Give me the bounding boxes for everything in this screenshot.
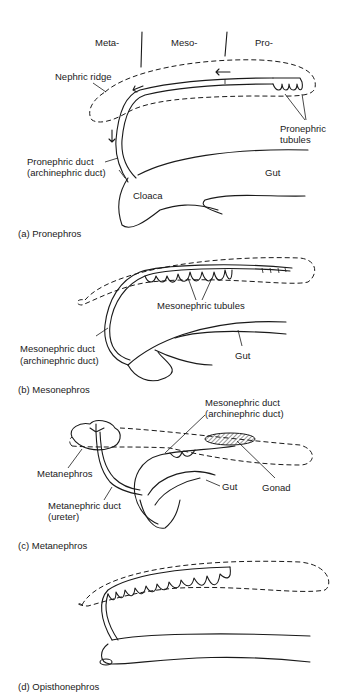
cloaca-outline	[140, 500, 180, 528]
label-pronephric-duct-line2: (archinephric duct)	[27, 167, 106, 178]
panel-c-drawing	[68, 415, 312, 528]
label-pronephric-tubules-line2: tubules	[280, 134, 311, 145]
gut-lower	[203, 195, 305, 214]
gut-upper	[138, 150, 308, 175]
pronephric-duct-outer	[116, 78, 273, 182]
label-mesonephric-duct-line1: Mesonephric duct	[20, 343, 95, 354]
label-pro-region: Pro-	[255, 37, 273, 48]
label-metanephros: Metanephros	[37, 468, 92, 479]
gut-upper	[148, 472, 215, 495]
opisthonephric-duct-outer	[102, 567, 230, 640]
label-meta-region: Meta-	[95, 37, 119, 48]
label-metanephric-duct-line1: Metanephric duct	[48, 500, 121, 511]
arrow-left-icon	[216, 69, 230, 75]
gut-lower	[102, 644, 311, 664]
ridge-outline	[72, 428, 312, 465]
caption-a: (a) Pronephros	[18, 228, 81, 239]
label-gonad: Gonad	[262, 482, 291, 493]
divider-meso-pro	[225, 32, 227, 56]
label-cloaca: Cloaca	[133, 190, 163, 201]
label-pronephric-tubules-line1: Pronephric	[280, 123, 326, 134]
divider-meta-meso	[141, 32, 142, 67]
panel-d-drawing	[78, 561, 329, 665]
label-mesonephric-tubules: Mesonephric tubules	[157, 300, 245, 311]
caption-b: (b) Mesonephros	[18, 384, 90, 395]
gonad	[205, 433, 255, 445]
mesonephric-duct-inner	[110, 269, 290, 360]
label-mesonephric-duct-c-line2: (archinephric duct)	[205, 408, 284, 419]
label-gut-b: Gut	[235, 350, 250, 361]
label-mesonephric-duct-c-line1: Mesonephric duct	[205, 397, 280, 408]
label-nephric-ridge: Nephric ridge	[55, 71, 112, 82]
pronephric-duct-inner	[122, 84, 273, 178]
nephric-ridge-outline	[90, 60, 316, 122]
mesonephric-duct	[134, 446, 235, 524]
panel-b-drawing	[77, 258, 314, 381]
label-mesonephric-duct-line2: (archinephric duct)	[20, 355, 99, 366]
gut-upper	[112, 634, 310, 640]
label-metanephric-duct-line2: (ureter)	[48, 511, 79, 522]
caption-c: (c) Metanephros	[18, 540, 87, 551]
label-pronephric-duct-line1: Pronephric duct	[27, 156, 94, 167]
pronephric-tubules	[273, 78, 302, 90]
gut-upper	[128, 322, 286, 365]
label-gut-c: Gut	[222, 481, 237, 492]
label-gut-a: Gut	[265, 167, 280, 178]
cloaca-outline	[128, 352, 172, 381]
arrow-down-icon	[109, 130, 115, 142]
label-meso-region: Meso-	[171, 37, 197, 48]
caption-d: (d) Opisthonephros	[18, 681, 99, 692]
